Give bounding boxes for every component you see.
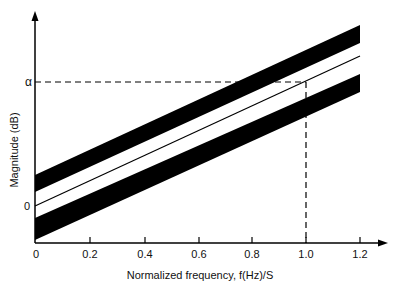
x-tick-label: 0 [33, 248, 39, 260]
x-tick-label: 0.4 [137, 248, 152, 260]
x-tick-label: 1.2 [352, 248, 367, 260]
x-ticks [90, 237, 360, 243]
chart: 0 0.2 0.4 0.6 0.8 1.0 1.2 0 α Normalized… [0, 0, 393, 290]
center-line [35, 56, 360, 206]
x-tick-label: 0.2 [82, 248, 97, 260]
y-tick-label-alpha: α [25, 75, 32, 89]
x-tick-label: 0.8 [244, 248, 259, 260]
x-axis-title: Normalized frequency, f(Hz)/S [127, 269, 274, 281]
x-axis-arrow-icon [378, 240, 388, 247]
x-tick-label: 0.6 [191, 248, 206, 260]
y-axis-arrow-icon [32, 11, 39, 21]
y-axis-title: Magnitude (dB) [8, 112, 20, 187]
y-tick-label-zero: 0 [24, 200, 30, 212]
x-tick-label: 1.0 [298, 248, 313, 260]
